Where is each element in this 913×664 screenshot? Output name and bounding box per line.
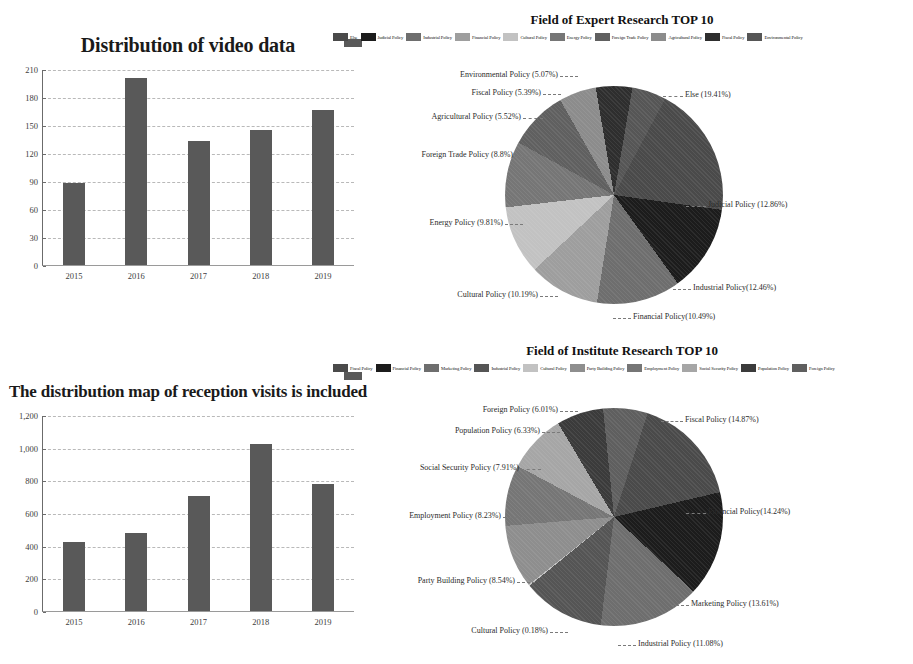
legend-swatch bbox=[705, 33, 720, 41]
legend-item[interactable]: Cultural Policy bbox=[503, 33, 546, 41]
legend-swatch bbox=[627, 364, 642, 372]
bar[interactable] bbox=[250, 444, 272, 611]
legend-label: Population Policy bbox=[758, 366, 789, 371]
pie-slice-label: Financial Policy(10.49%) bbox=[633, 312, 715, 321]
legend-label: Foreign Trade Policy bbox=[612, 35, 649, 40]
legend-label: Social Security Policy bbox=[699, 366, 738, 371]
legend-item[interactable]: Else bbox=[333, 33, 358, 41]
pie-slice-label: Foreign Policy (6.01%) bbox=[483, 405, 558, 414]
legend-label: Judicial Policy bbox=[378, 35, 404, 40]
legend-swatch bbox=[474, 364, 489, 372]
legend-swatch bbox=[361, 33, 376, 41]
legend-label: Foreign Policy bbox=[809, 366, 835, 371]
legend-item[interactable]: Industrial Policy bbox=[406, 33, 452, 41]
legend-item[interactable]: Employment Policy bbox=[627, 364, 679, 372]
pie-chart-bottom-circle bbox=[505, 408, 723, 626]
bar[interactable] bbox=[63, 542, 85, 611]
y-axis-tick-label: 400 bbox=[25, 542, 43, 552]
legend-item[interactable]: Financial Policy bbox=[455, 33, 500, 41]
pie-slice-label: Financial Policy(14.24%) bbox=[708, 507, 790, 516]
legend-swatch bbox=[376, 364, 391, 372]
leader-line bbox=[505, 224, 523, 225]
legend-label: Industrial Policy bbox=[491, 366, 520, 371]
legend-swatch bbox=[333, 33, 348, 41]
y-axis-tick-label: 0 bbox=[34, 607, 43, 617]
legend-item[interactable]: Fiscal Policy bbox=[333, 364, 373, 372]
bar-slot bbox=[43, 70, 105, 265]
legend-item[interactable]: Marketing Policy bbox=[424, 364, 471, 372]
bar-chart-bottom-title: The distribution map of reception visits… bbox=[8, 382, 368, 402]
y-axis-tick-label: 200 bbox=[25, 574, 43, 584]
leader-line bbox=[663, 96, 683, 97]
y-axis-tick-label: 600 bbox=[25, 509, 43, 519]
bar-slot bbox=[167, 70, 229, 265]
legend-label: Cultural Policy bbox=[520, 35, 546, 40]
leader-line bbox=[515, 156, 535, 157]
y-axis-tick-label: 800 bbox=[25, 476, 43, 486]
x-axis-tick-label: 2017 bbox=[167, 271, 229, 281]
bar-chart-bottom-legend-swatch bbox=[344, 372, 362, 380]
y-axis-tick-label: 1,200 bbox=[19, 411, 43, 421]
pie-slice-label: Fiscal Policy (5.39%) bbox=[471, 88, 541, 97]
legend-item[interactable]: Industrial Policy bbox=[474, 364, 520, 372]
y-axis-tick-label: 0 bbox=[34, 261, 43, 271]
bar-chart-top-xaxis: 20152016201720182019 bbox=[43, 265, 354, 281]
legend-swatch bbox=[595, 33, 610, 41]
legend-item[interactable]: Financial Policy bbox=[376, 364, 421, 372]
legend-item[interactable]: Population Policy bbox=[741, 364, 789, 372]
bar[interactable] bbox=[250, 130, 272, 265]
legend-swatch bbox=[424, 364, 439, 372]
bar[interactable] bbox=[312, 110, 334, 265]
legend-item[interactable]: Judicial Policy bbox=[361, 33, 404, 41]
legend-item[interactable]: Party Building Policy bbox=[570, 364, 625, 372]
leader-line bbox=[671, 605, 689, 606]
legend-item[interactable]: Environmental Policy bbox=[747, 33, 802, 41]
leader-line bbox=[517, 582, 535, 583]
legend-item[interactable]: Foreign Trade Policy bbox=[595, 33, 649, 41]
bar-chart-bottom-plot: 02004006008001,0001,200 2015201620172018… bbox=[42, 416, 354, 612]
legend-label: Industrial Policy bbox=[423, 35, 452, 40]
bar[interactable] bbox=[63, 183, 85, 265]
legend-label: Energy Policy bbox=[567, 35, 592, 40]
leader-line bbox=[560, 411, 578, 412]
leader-line bbox=[673, 289, 691, 290]
legend-item[interactable]: Foreign Policy bbox=[792, 364, 835, 372]
legend-label: Party Building Policy bbox=[587, 366, 625, 371]
bar[interactable] bbox=[312, 484, 334, 611]
pie-slice-label: Fiscal Policy (14.87%) bbox=[685, 415, 759, 424]
leader-line bbox=[686, 206, 706, 207]
legend-label: Agricultural Policy bbox=[668, 35, 701, 40]
bar-chart-bottom-bars bbox=[43, 416, 354, 611]
legend-item[interactable]: Agricultural Policy bbox=[651, 33, 701, 41]
legend-item[interactable]: Energy Policy bbox=[550, 33, 592, 41]
pie-slice-label: Industrial Policy(12.46%) bbox=[693, 283, 776, 292]
bar[interactable] bbox=[125, 533, 147, 611]
bar-slot bbox=[43, 416, 105, 611]
legend-swatch bbox=[455, 33, 470, 41]
y-axis-tick-label: 90 bbox=[30, 177, 44, 187]
pie-chart-top-legend: ElseJudicial PolicyIndustrial PolicyFina… bbox=[333, 33, 911, 41]
bar-slot bbox=[230, 70, 292, 265]
leader-line bbox=[686, 513, 706, 514]
x-axis-tick-label: 2016 bbox=[105, 617, 167, 627]
legend-swatch bbox=[741, 364, 756, 372]
bar-slot bbox=[167, 416, 229, 611]
legend-swatch bbox=[523, 364, 538, 372]
leader-line bbox=[661, 421, 683, 422]
legend-item[interactable]: Social Security Policy bbox=[682, 364, 738, 372]
bar[interactable] bbox=[188, 496, 210, 611]
legend-item[interactable]: Fiscal Policy bbox=[705, 33, 745, 41]
pie-slice-label: Cultural Policy (10.19%) bbox=[457, 290, 538, 299]
legend-label: Financial Policy bbox=[393, 366, 421, 371]
pie-slice-label: Industrial Policy (11.08%) bbox=[638, 639, 723, 648]
leader-line bbox=[543, 94, 561, 95]
pie-slice-label: Energy Policy (9.81%) bbox=[430, 218, 503, 227]
bar[interactable] bbox=[188, 141, 210, 265]
legend-swatch bbox=[570, 364, 585, 372]
legend-item[interactable]: Cultural Policy bbox=[523, 364, 566, 372]
reception-visits-bar-chart-panel: The distribution map of reception visits… bbox=[8, 382, 368, 612]
y-axis-tick-label: 30 bbox=[30, 233, 44, 243]
legend-label: Else bbox=[350, 35, 358, 40]
bar-chart-top-title: Distribution of video data bbox=[8, 34, 368, 57]
bar[interactable] bbox=[125, 78, 147, 265]
